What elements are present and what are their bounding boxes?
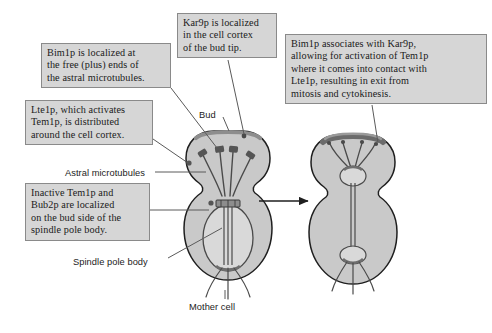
right-cell-panel [309, 134, 397, 294]
callout-line: spindle pole body. [31, 224, 144, 236]
callout-inactive-tem1p-bub2p: Inactive Tem1p and Bub2p are localized o… [25, 183, 150, 241]
left-cell-panel [184, 131, 272, 299]
callout-line: of the bud tip. [183, 42, 271, 54]
callout-line: where it comes into contact with [291, 63, 481, 75]
label-bud: Bud [199, 110, 216, 120]
callout-line: allowing for activation of Tem1p [291, 50, 481, 62]
callout-line: Bub2p are localized [31, 199, 144, 211]
callout-line: Kar9p is localized [183, 17, 271, 29]
leader-kar9p [228, 60, 244, 134]
callout-line: on the bud side of the [31, 212, 144, 224]
label-astral-microtubules: Astral microtubules [65, 168, 145, 178]
callout-line: Lte1p, which activates [31, 104, 147, 116]
callout-line: Inactive Tem1p and [31, 187, 144, 199]
callout-line: around the cell cortex. [31, 129, 147, 141]
callout-line: Tem1p, is distributed [31, 116, 147, 128]
callout-line: Bim1p associates with Kar9p, [291, 38, 481, 50]
callout-kar9p-cortex: Kar9p is localized in the cell cortex of… [177, 13, 277, 58]
callout-bim1p-kar9p-association: Bim1p associates with Kar9p, allowing fo… [285, 34, 487, 104]
leader-bud [223, 117, 229, 131]
left-kar9p-cortex-dot [242, 134, 247, 139]
callout-bim1p-plus-ends: Bim1p is localized at the free (plus) en… [41, 43, 171, 88]
callout-lte1p-cortex: Lte1p, which activates Tem1p, is distrib… [25, 100, 153, 145]
callout-line: mitosis and cytokinesis. [291, 88, 481, 100]
callout-line: the free (plus) ends of [47, 59, 165, 71]
figure-canvas: Bim1p is localized at the free (plus) en… [0, 0, 492, 333]
leader-lte1p [153, 139, 188, 163]
callout-line: Bim1p is localized at [47, 47, 165, 59]
callout-line: the astral microtubules. [47, 72, 165, 84]
callout-line: in the cell cortex [183, 29, 271, 41]
left-tem1p-bub2p-dot [208, 200, 213, 205]
label-mother-cell: Mother cell [189, 302, 235, 312]
left-spindle-pole-body-bud-side [216, 200, 240, 207]
label-spindle-pole-body: Spindle pole body [73, 257, 148, 267]
callout-line: Lte1p, resulting in exit from [291, 75, 481, 87]
